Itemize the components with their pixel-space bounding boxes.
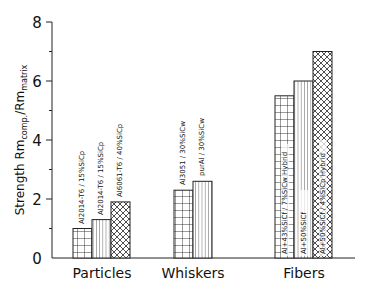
svg-text:Strength Rmcomp./Rmmatrix: Strength Rmcomp./Rmmatrix xyxy=(13,64,29,215)
bar-group-fibers: Al+43%SiCf / 7%SiCw Hybrid Al+50%SiCf Al… xyxy=(275,52,332,259)
svg-text:Al6061-T6 / 40%SiCp: Al6061-T6 / 40%SiCp xyxy=(116,123,124,197)
y-tick-labels: 0 2 4 6 8 xyxy=(32,14,42,268)
strength-bar-chart: 0 2 4 6 8 Strength Rmcomp./Rmmatrix Al20… xyxy=(0,0,375,296)
svg-text:Al3051 / 30%SiCw: Al3051 / 30%SiCw xyxy=(179,121,187,185)
svg-text:6: 6 xyxy=(32,73,42,91)
svg-text:Whiskers: Whiskers xyxy=(161,265,224,281)
svg-text:purAl / 30%SiCw: purAl / 30%SiCw xyxy=(198,118,206,176)
bar-group-whiskers: Al3051 / 30%SiCw purAl / 30%SiCw xyxy=(174,118,212,258)
svg-text:2: 2 xyxy=(32,191,42,209)
svg-text:Al2014-T6 / 15%SiCp: Al2014-T6 / 15%SiCp xyxy=(97,141,105,215)
y-axis-title: Strength Rmcomp./Rmmatrix xyxy=(13,64,29,215)
y-axis xyxy=(46,22,52,258)
svg-text:Al+50%SiCf / 4%SiCp Hybrid: Al+50%SiCf / 4%SiCp Hybrid xyxy=(319,153,327,254)
x-category-labels: Particles Whiskers Fibers xyxy=(72,265,324,281)
svg-text:Particles: Particles xyxy=(72,265,131,281)
bar-group-particles: Al2014-T6 / 15%SiCp Al2014-T6 / 15%SiCp … xyxy=(73,123,130,258)
svg-text:Al+50%SiCf: Al+50%SiCf xyxy=(300,212,308,254)
svg-text:Al2014-T6 / 15%SiCp: Al2014-T6 / 15%SiCp xyxy=(78,150,86,224)
svg-text:0: 0 xyxy=(32,250,42,268)
svg-text:Fibers: Fibers xyxy=(283,265,324,281)
svg-text:4: 4 xyxy=(32,132,42,150)
svg-text:Al+43%SiCf / 7%SiCw Hybrid: Al+43%SiCf / 7%SiCw Hybrid xyxy=(281,152,289,254)
svg-text:8: 8 xyxy=(32,14,42,32)
